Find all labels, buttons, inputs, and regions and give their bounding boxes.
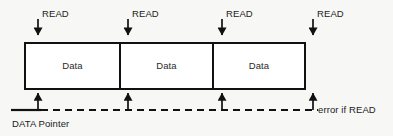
- read-arrow-group: [38, 19, 313, 35]
- error-note-label: error if READ: [318, 104, 376, 115]
- read-label: READ: [226, 8, 253, 19]
- read-label: READ: [132, 8, 159, 19]
- timing-diagram: READ READ READ READ Data Data Data error…: [0, 0, 393, 136]
- data-cell-label: Data: [120, 60, 213, 71]
- data-cell-label: Data: [213, 60, 305, 71]
- read-label: READ: [42, 8, 69, 19]
- data-cell-label: Data: [25, 60, 120, 71]
- read-label: READ: [317, 8, 344, 19]
- data-pointer-caption: DATA Pointer: [12, 118, 69, 129]
- pointer-arrow-group: [38, 93, 313, 110]
